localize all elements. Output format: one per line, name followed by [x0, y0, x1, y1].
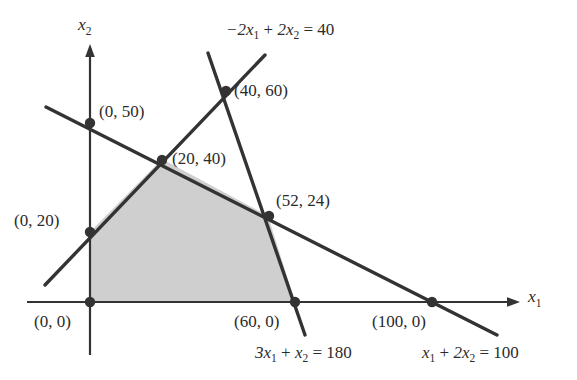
point-label-20-40: (20, 40) [172, 150, 226, 167]
x-axis-label-base: x [528, 286, 536, 306]
y-axis-label-base: x [78, 14, 86, 34]
eq-bl-operator: + [277, 343, 295, 362]
point-marker-100-0 [427, 297, 437, 307]
point-marker-20-40 [157, 155, 167, 165]
eq-br-rhs: = 100 [475, 343, 519, 362]
point-marker-40-60 [221, 86, 231, 96]
point-marker-0-20 [85, 227, 95, 237]
point-marker-60-0 [290, 297, 300, 307]
eq-bl-term-a: 3x [255, 343, 271, 362]
y-axis-label: x2 [78, 16, 92, 37]
eq-top-operator: + [259, 20, 277, 39]
equation-label-constraint-2: 3x1 + x2 = 180 [255, 344, 352, 365]
equation-label-constraint-1: −2x1 + 2x2 = 40 [226, 21, 334, 42]
equation-label-constraint-3: x1 + 2x2 = 100 [422, 344, 519, 365]
eq-br-operator: + [435, 343, 453, 362]
eq-br-term-a: x [422, 343, 430, 362]
x-axis-arrowhead [507, 297, 520, 307]
eq-bl-rhs: = 180 [308, 343, 352, 362]
point-label-0-20: (0, 20) [14, 212, 59, 229]
plot-canvas [0, 0, 577, 380]
x-axis-label-sub: 1 [536, 297, 542, 309]
point-label-40-60: (40, 60) [234, 82, 288, 99]
x-axis-label: x1 [528, 288, 542, 309]
point-marker-0-50 [85, 118, 95, 128]
point-marker-52-24 [264, 211, 274, 221]
point-marker-0-0 [85, 297, 95, 307]
eq-top-rhs: = 40 [299, 20, 334, 39]
eq-top-term-b: 2x [277, 20, 293, 39]
point-label-52-24: (52, 24) [276, 192, 330, 209]
point-label-60-0: (60, 0) [234, 313, 279, 330]
y-axis-arrowhead [85, 44, 95, 57]
point-label-100-0: (100, 0) [372, 313, 426, 330]
point-label-0-50: (0, 50) [99, 103, 144, 120]
linear-programming-figure: x2 x1 −2x1 + 2x2 = 40 3x1 + x2 = 180 x1 … [0, 0, 577, 380]
eq-top-term-a: −2x [226, 20, 254, 39]
y-axis-label-sub: 2 [86, 25, 92, 37]
eq-br-term-b: 2x [453, 343, 469, 362]
point-label-0-0: (0, 0) [34, 313, 71, 330]
